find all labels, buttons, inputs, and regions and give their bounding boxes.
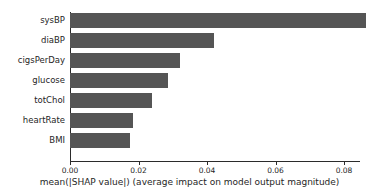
- bar: [70, 133, 130, 148]
- y-tick-label-bmi: BMI: [0, 133, 65, 148]
- y-tick-label-diabp: diaBP: [0, 33, 65, 48]
- bar: [70, 13, 366, 28]
- y-tick-label-totchol: totChol: [0, 93, 65, 108]
- y-tick-label-cigsperday: cigsPerDay: [0, 53, 65, 68]
- x-tick-label: 0.08: [336, 166, 353, 175]
- x-tick-mark: [139, 162, 140, 165]
- y-tick-label-heartrate: heartRate: [0, 113, 65, 128]
- x-axis-spine: [70, 161, 360, 162]
- x-axis-title: mean(|SHAP value|) (average impact on mo…: [0, 176, 379, 188]
- x-tick-mark: [344, 162, 345, 165]
- bar: [70, 53, 180, 68]
- x-tick-mark: [70, 162, 71, 165]
- bar: [70, 33, 214, 48]
- x-tick-mark: [276, 162, 277, 165]
- bar: [70, 93, 152, 108]
- bar: [70, 73, 168, 88]
- y-tick-label-sysbp: sysBP: [0, 13, 65, 28]
- x-tick-label: 0.06: [267, 166, 284, 175]
- y-tick-label-glucose: glucose: [0, 73, 65, 88]
- plot-area: [70, 13, 344, 154]
- x-tick-label: 0.02: [130, 166, 147, 175]
- x-tick-label: 0.04: [199, 166, 216, 175]
- x-tick-label: 0.00: [62, 166, 79, 175]
- shap-feature-importance-chart: sysBP diaBP cigsPerDay glucose totChol h…: [0, 0, 379, 192]
- bar: [70, 113, 133, 128]
- x-tick-mark: [207, 162, 208, 165]
